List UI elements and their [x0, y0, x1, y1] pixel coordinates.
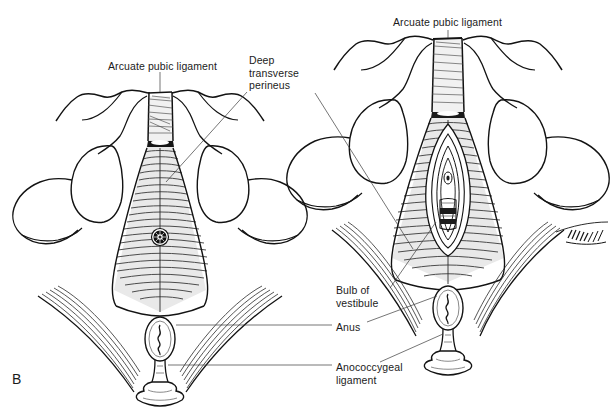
- left-urethral-orifice: [152, 229, 169, 246]
- label-arcuate-pubic-ligament-left: Arcuate pubic ligament: [108, 60, 217, 73]
- right-figure-left-pubic-bone-outline: [287, 36, 433, 209]
- left-subpubic-highlight: [151, 140, 169, 145]
- label-anus: Anus: [336, 321, 360, 334]
- right-figure-right-pubic-bone-outline: [463, 36, 609, 209]
- right-anococcygeal-ligament: [440, 329, 456, 351]
- left-pubic-bone-outline: [13, 90, 148, 243]
- leader-anococcygeal-right: [380, 334, 443, 362]
- right-coccyx: [424, 351, 471, 375]
- anatomy-figure-panel: Arcuate pubic ligament Deep transverse p…: [0, 0, 616, 414]
- label-deep-transverse-perineus: Deep transverse perineus: [249, 54, 299, 92]
- right-muscle-fibre-hatching: [556, 222, 608, 244]
- leader-deep-transverse-perineus-left: [166, 92, 247, 182]
- left-urogenital-hiatus-shading: [148, 96, 172, 140]
- label-arcuate-pubic-ligament-right: Arcuate pubic ligament: [393, 16, 502, 29]
- right-anus: [433, 286, 463, 330]
- left-coccyx: [136, 382, 183, 406]
- right-subpubic-highlight: [437, 111, 459, 116]
- left-sacrotuberous-fibres-right: [180, 286, 282, 392]
- left-figure-male: [13, 90, 307, 406]
- right-pubic-band-shading: [432, 38, 464, 112]
- panel-letter-b: B: [12, 371, 22, 387]
- label-bulb-of-vestibule: Bulb of vestibule: [336, 284, 378, 309]
- left-anus: [145, 317, 175, 361]
- left-anococcygeal-ligament: [152, 360, 168, 382]
- left-sacrotuberous-fibres-left: [38, 286, 140, 392]
- anatomy-illustration: [0, 0, 616, 414]
- label-anococcygeal-ligament: Anococcygeal ligament: [336, 361, 403, 386]
- leader-deep-transverse-perineus-right: [315, 93, 413, 249]
- left-figure-right-pubic-bone-outline: [172, 90, 307, 243]
